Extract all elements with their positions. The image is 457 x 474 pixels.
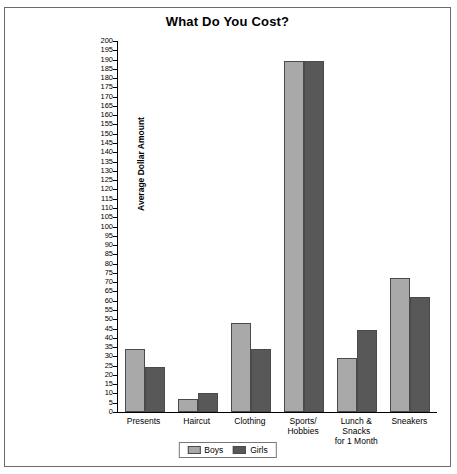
y-axis-tick (113, 50, 117, 51)
y-axis-tick-label: 90 (105, 241, 113, 249)
y-axis-tick-label: 190 (100, 56, 113, 64)
y-axis-tick (113, 319, 117, 320)
y-axis-tick (113, 366, 117, 367)
y-axis-tick-label: 35 (105, 343, 113, 351)
y-axis-tick (113, 356, 117, 357)
y-axis-tick-label: 145 (100, 139, 113, 147)
x-axis-label-3: Sports/ Hobbies (277, 416, 330, 436)
y-axis-tick-label: 110 (101, 204, 113, 212)
bar-series-container (118, 41, 437, 412)
y-axis-tick-label: 75 (105, 269, 113, 277)
y-axis-tick-label: 85 (105, 251, 113, 259)
y-axis-tick (113, 291, 117, 292)
y-axis-tick-label: 115 (101, 195, 113, 203)
y-axis-tick-label: 80 (105, 260, 113, 268)
y-axis-tick-label: 105 (100, 213, 113, 221)
bar-girls-0 (145, 367, 165, 412)
y-axis-tick (113, 143, 117, 144)
bar-boys-4 (337, 358, 357, 412)
bar-boys-0 (125, 349, 145, 412)
y-axis-tick-label: 140 (100, 149, 113, 157)
chart-title: What Do You Cost? (5, 14, 450, 29)
plot-area: Average Dollar Amount (117, 41, 437, 413)
bar-boys-2 (231, 323, 251, 412)
y-axis-tick-label: 195 (100, 47, 113, 55)
y-axis-tick (113, 264, 117, 265)
y-axis-tick-label: 200 (100, 37, 113, 45)
legend-item-girls: Girls (233, 445, 267, 455)
y-axis-tick-label: 95 (105, 232, 113, 240)
y-axis-tick (113, 199, 117, 200)
y-axis-tick-label: 55 (105, 306, 113, 314)
bar-girls-1 (198, 393, 218, 412)
y-axis-tick-labels: 0510152025303540455055606570758085909510… (77, 41, 113, 413)
x-axis-line (117, 412, 437, 413)
legend-swatch-girls (233, 446, 246, 454)
y-axis-tick-label: 185 (100, 65, 113, 73)
y-axis-tick (113, 115, 117, 116)
y-axis-tick (113, 171, 117, 172)
y-axis-tick (113, 87, 117, 88)
y-axis-tick (113, 180, 117, 181)
y-axis-tick (113, 329, 117, 330)
y-axis-tick-label: 125 (100, 176, 113, 184)
y-axis-tick (113, 403, 117, 404)
y-axis-tick-label: 70 (105, 278, 113, 286)
y-axis-tick (113, 273, 117, 274)
x-axis-label-4: Lunch & Snacks for 1 Month (330, 416, 383, 446)
y-axis-tick (113, 189, 117, 190)
y-axis-tick-label: 45 (105, 325, 113, 333)
y-axis-tick (113, 41, 117, 42)
y-axis-tick (113, 78, 117, 79)
y-axis-tick-label: 135 (100, 158, 113, 166)
y-axis-title: Average Dollar Amount (136, 84, 146, 244)
y-axis-tick (113, 97, 117, 98)
y-axis-tick (113, 134, 117, 135)
y-axis-tick-label: 65 (105, 288, 113, 296)
x-axis-label-5: Sneakers (383, 416, 436, 426)
bar-girls-4 (357, 330, 377, 412)
y-axis-tick (113, 254, 117, 255)
y-axis-tick (113, 310, 117, 311)
y-axis-tick-label: 10 (105, 390, 113, 398)
y-axis-tick (113, 124, 117, 125)
y-axis-tick-label: 40 (105, 334, 113, 342)
y-axis-tick (113, 347, 117, 348)
y-axis-tick (113, 282, 117, 283)
y-axis-tick (113, 106, 117, 107)
y-axis-tick-label: 180 (100, 74, 113, 82)
bar-boys-1 (178, 399, 198, 412)
bar-boys-5 (390, 278, 410, 412)
y-axis-tick-label: 20 (105, 371, 113, 379)
y-axis-tick (113, 393, 117, 394)
bar-girls-2 (251, 349, 271, 412)
y-axis-tick (113, 208, 117, 209)
x-axis-label-0: Presents (117, 416, 170, 426)
y-axis-tick (113, 69, 117, 70)
y-axis-tick (113, 412, 117, 413)
y-axis-tick-label: 165 (100, 102, 113, 110)
y-axis-tick (113, 60, 117, 61)
y-axis-tick (113, 217, 117, 218)
y-axis-tick (113, 162, 117, 163)
y-axis-tick-label: 155 (100, 121, 113, 129)
x-axis-category-labels: PresentsHaircutClothingSports/ HobbiesLu… (117, 416, 437, 460)
y-axis-tick-label: 130 (100, 167, 113, 175)
y-axis-tick-label: 175 (100, 84, 113, 92)
y-axis-tick-label: 150 (100, 130, 113, 138)
y-axis-tick (113, 375, 117, 376)
y-axis-tick-label: 60 (105, 297, 113, 305)
y-axis-tick (113, 338, 117, 339)
chart-frame: What Do You Cost? 0510152025303540455055… (4, 7, 451, 467)
y-axis-tick-label: 100 (100, 223, 113, 231)
y-axis-tick-label: 120 (100, 186, 113, 194)
y-axis-tick (113, 245, 117, 246)
y-axis-tick (113, 384, 117, 385)
y-axis-tick-label: 25 (105, 362, 113, 370)
y-axis-tick-label: 170 (100, 93, 113, 101)
y-axis-tick (113, 152, 117, 153)
x-axis-label-2: Clothing (223, 416, 276, 426)
legend-swatch-boys (187, 446, 200, 454)
legend-label-boys: Boys (204, 445, 223, 455)
bar-boys-3 (284, 61, 304, 412)
